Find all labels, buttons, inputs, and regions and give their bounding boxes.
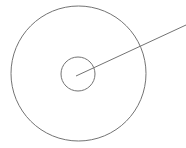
diagram-background xyxy=(0,0,186,148)
figure-container xyxy=(0,0,186,148)
concentric-circles-diagram xyxy=(0,0,186,148)
